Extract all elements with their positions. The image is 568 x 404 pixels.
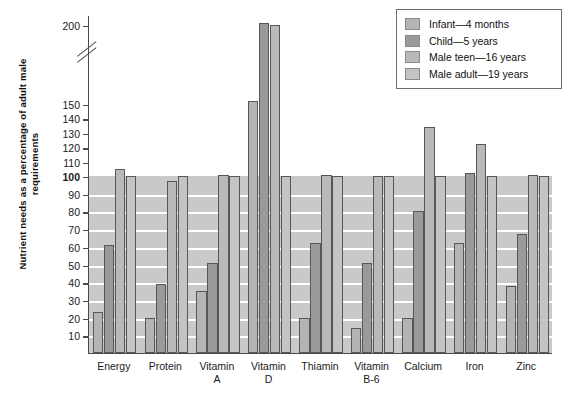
bar-group xyxy=(351,16,394,353)
x-tick-label-line: Vitamin xyxy=(191,360,243,373)
nutrient-needs-bar-chart: Nutrient needs as a percentage of adult … xyxy=(0,0,568,404)
bar xyxy=(156,284,166,353)
bar xyxy=(248,101,258,353)
y-axis-title: Nutrient needs as a percentage of adult … xyxy=(17,39,41,289)
legend-label: Infant—4 months xyxy=(429,18,509,30)
x-tick-label-line: Iron xyxy=(449,360,501,373)
x-tick-label: VitaminB-6 xyxy=(346,360,398,385)
legend-item: Male teen—16 years xyxy=(405,49,553,66)
bar xyxy=(424,127,434,353)
x-tick-label: Calcium xyxy=(397,360,449,373)
y-tick-label: 110 xyxy=(46,158,80,168)
y-tick-label: 100 xyxy=(46,172,80,182)
y-tick-label: 60 xyxy=(46,243,80,253)
x-tick-label-line: D xyxy=(243,373,295,386)
legend-label: Male teen—16 years xyxy=(429,51,526,63)
y-tick-label: 50 xyxy=(46,261,80,271)
x-tick-label: Energy xyxy=(88,360,140,373)
y-tick-label: 10 xyxy=(46,331,80,341)
legend-swatch xyxy=(405,18,420,30)
x-tick-label-line: Thiamin xyxy=(294,360,346,373)
x-tick-label: Protein xyxy=(140,360,192,373)
bar-group xyxy=(145,16,188,353)
y-tick-label: 30 xyxy=(46,296,80,306)
bar xyxy=(178,176,188,353)
x-tick-label-line: Energy xyxy=(88,360,140,373)
x-tick-label-line: Zinc xyxy=(500,360,552,373)
legend-swatch xyxy=(405,68,420,80)
y-tick-label: 70 xyxy=(46,225,80,235)
bar xyxy=(229,176,239,353)
chart-legend: Infant—4 monthsChild—5 yearsMale teen—16… xyxy=(396,9,562,89)
bar xyxy=(454,243,464,353)
legend-item: Male adult—19 years xyxy=(405,66,553,83)
y-tick-label: 80 xyxy=(46,207,80,217)
bar xyxy=(476,144,486,353)
x-tick-label: Thiamin xyxy=(294,360,346,373)
x-tick-label: VitaminD xyxy=(243,360,295,385)
bar xyxy=(259,23,269,353)
bar xyxy=(373,176,383,353)
bar xyxy=(517,234,527,353)
x-tick-label: Zinc xyxy=(500,360,552,373)
bar xyxy=(310,243,320,353)
y-tick-label: 20 xyxy=(46,314,80,324)
y-tick-label: 120 xyxy=(46,143,80,153)
bar-group xyxy=(93,16,136,353)
y-tick-label: 130 xyxy=(46,129,80,139)
bar-group xyxy=(299,16,342,353)
x-tick-label: Iron xyxy=(449,360,501,373)
y-tick-label: 140 xyxy=(46,114,80,124)
legend-swatch xyxy=(405,35,420,47)
bar xyxy=(384,176,394,353)
bar-group xyxy=(196,16,239,353)
legend-swatch xyxy=(405,51,420,63)
bar xyxy=(218,175,228,353)
legend-label: Male adult—19 years xyxy=(429,68,528,80)
bar xyxy=(435,176,445,353)
bar xyxy=(299,318,309,353)
y-tick-label: 40 xyxy=(46,278,80,288)
bar xyxy=(362,263,372,353)
bar xyxy=(539,176,549,353)
bar xyxy=(196,291,206,353)
x-tick-label: VitaminA xyxy=(191,360,243,385)
bar xyxy=(528,175,538,353)
x-tick-label-line: Vitamin xyxy=(346,360,398,373)
bar xyxy=(465,173,475,353)
y-tick-label: 150 xyxy=(46,100,80,110)
bar xyxy=(104,245,114,353)
legend-item: Infant—4 months xyxy=(405,16,553,33)
bar xyxy=(487,176,497,353)
bar xyxy=(332,176,342,353)
x-tick-label-line: A xyxy=(191,373,243,386)
bar xyxy=(115,169,125,353)
legend-item: Child—5 years xyxy=(405,33,553,50)
bar xyxy=(270,25,280,353)
x-tick-label-line: Vitamin xyxy=(243,360,295,373)
y-tick-label: 90 xyxy=(46,190,80,200)
bar xyxy=(413,211,423,353)
bar xyxy=(93,312,103,353)
bar xyxy=(281,176,291,353)
y-tick-label: 200 xyxy=(46,21,80,31)
bar xyxy=(167,181,177,353)
x-tick-label-line: Calcium xyxy=(397,360,449,373)
bar xyxy=(402,318,412,353)
x-tick-label-line: Protein xyxy=(140,360,192,373)
bar xyxy=(506,286,516,353)
bar xyxy=(126,176,136,353)
bar xyxy=(351,328,361,353)
bar-group xyxy=(248,16,291,353)
bar xyxy=(145,318,155,353)
bar xyxy=(207,263,217,353)
legend-label: Child—5 years xyxy=(429,35,498,47)
x-tick-label-line: B-6 xyxy=(346,373,398,386)
bar xyxy=(321,175,331,353)
